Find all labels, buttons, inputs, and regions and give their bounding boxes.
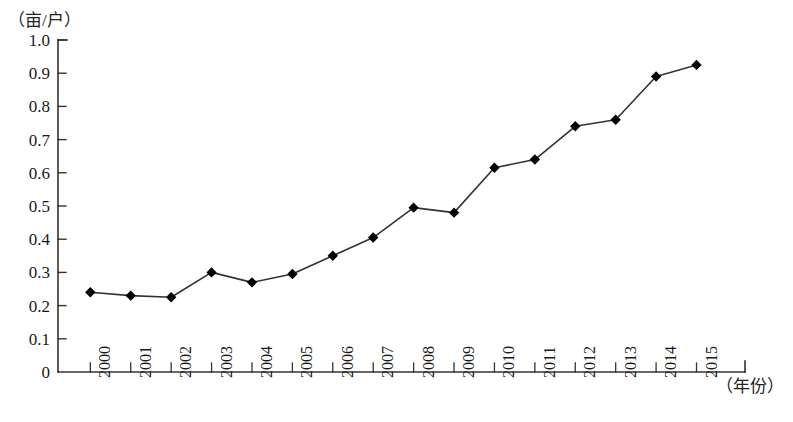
data-point-marker <box>287 269 297 279</box>
data-point-marker <box>247 277 257 287</box>
data-series <box>85 60 702 303</box>
data-point-marker <box>166 292 176 302</box>
data-point-marker <box>85 287 95 297</box>
data-point-marker <box>206 267 216 277</box>
line-chart: （亩/户） （年份） 00.10.20.30.40.50.60.70.80.91… <box>0 0 793 422</box>
axes <box>58 40 745 372</box>
series-line <box>90 65 696 297</box>
chart-page: （亩/户） （年份） 00.10.20.30.40.50.60.70.80.91… <box>0 0 793 422</box>
data-point-marker <box>126 290 136 300</box>
data-point-marker <box>691 60 701 70</box>
data-point-marker <box>328 251 338 261</box>
plot-area <box>0 0 793 422</box>
